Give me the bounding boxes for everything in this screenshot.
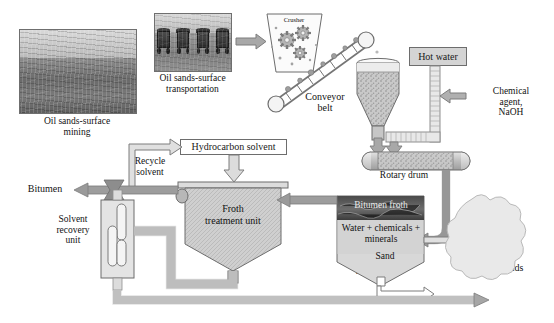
- arrow-chemical-agent-inlet: [440, 89, 466, 103]
- froth-treatment-line2: treatment unit: [205, 215, 261, 226]
- froth-treatment-line1: Froth: [222, 203, 244, 214]
- water-chemicals-line1: Water + chemicals +: [342, 223, 420, 233]
- separator-unit: Bitumen froth Water + chemicals + minera…: [337, 196, 424, 286]
- sand-label: Sand: [376, 251, 395, 261]
- froth-treatment-unit: Froth treatment unit: [176, 182, 288, 283]
- crusher-unit: Crusher: [267, 14, 322, 72]
- pipe-recovery-to-ponds: [117, 290, 489, 307]
- arrow-recycle-solvent: [129, 139, 182, 190]
- crusher-label: Crusher: [284, 16, 305, 23]
- bitumen-froth-label: Bitumen froth: [354, 200, 408, 210]
- rotary-drum-unit: [362, 152, 470, 170]
- arrow-transport-to-crusher: [236, 34, 266, 49]
- tailing-ponds-unit: [445, 195, 525, 280]
- arrow-solvent-to-froth: [224, 155, 244, 182]
- process-flow-diagram: Oil sands-surface mining Oil sands-surfa…: [0, 0, 554, 323]
- solvent-recovery-unit: [101, 190, 134, 290]
- diagram-vector-layer: Crusher: [0, 0, 554, 323]
- pipe-separator-to-froth: [277, 193, 337, 207]
- pipe-bitumen-product: [74, 180, 178, 200]
- slurry-hopper-unit: [357, 58, 399, 140]
- water-chemicals-line2: minerals: [365, 234, 398, 244]
